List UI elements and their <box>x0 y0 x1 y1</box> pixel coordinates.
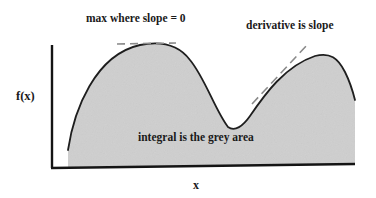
integral-grey-area <box>68 43 355 167</box>
integral-area-label: integral is the grey area <box>138 131 254 143</box>
derivative-slope-label: derivative is slope <box>246 19 334 31</box>
max-slope-zero-label: max where slope = 0 <box>86 12 186 24</box>
x-axis-label: x <box>193 178 199 193</box>
zero-slope-tangent-line <box>117 43 176 44</box>
calculus-diagram: max where slope = 0 derivative is slope … <box>0 0 376 198</box>
y-axis-label: f(x) <box>16 89 35 104</box>
